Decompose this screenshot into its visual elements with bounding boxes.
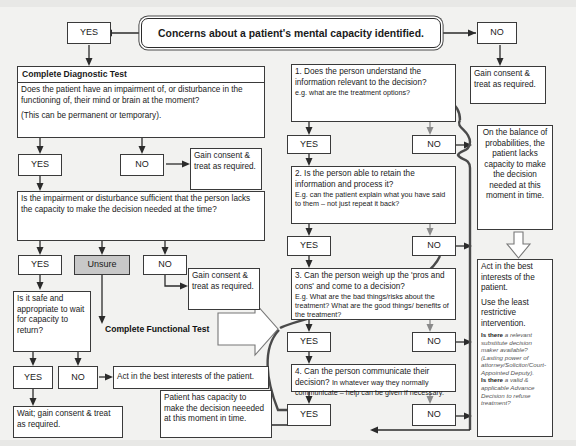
no-label-q2[interactable]: NO (412, 236, 456, 256)
functional-q1-box: 1. Does the person understand the inform… (291, 64, 456, 122)
functional-q2-text: 2. Is the person able to retain the info… (295, 169, 452, 190)
least-restrictive-text: Use the least restrictive intervention. (481, 298, 549, 330)
diagnostic-test-box: Complete Diagnostic Test Does the patien… (17, 66, 265, 138)
complete-functional-test-banner: Complete Functional Test (97, 314, 257, 344)
yes-label-wait[interactable]: YES (13, 366, 53, 389)
gain-consent-box-1: Gain consent & treat as required. (190, 148, 262, 190)
lacks-capacity-box: On the balance of probabilities, the pat… (477, 125, 553, 230)
yes-label-q1[interactable]: YES (287, 135, 331, 154)
yes-label-top[interactable]: YES (67, 22, 111, 44)
impairment-question-box: Is the impairment or disturbance suffici… (17, 191, 265, 241)
functional-q2-box: 2. Is the person able to retain the info… (291, 166, 456, 224)
diagnostic-test-note: (This can be permanent or temporary). (21, 111, 261, 122)
best-interests-box-left: Act in the best interests of the patient… (113, 366, 269, 389)
no-label-diagnostic[interactable]: NO (120, 154, 164, 176)
functional-q2-example: E.g. can the patient explain what you ha… (295, 190, 452, 208)
wait-outcome-box: Wait; gain consent & treat as required. (13, 406, 123, 438)
no-label-q3[interactable]: NO (412, 332, 456, 352)
flowchart-canvas: Concerns about a patient's mental capaci… (0, 0, 576, 446)
yes-label-impairment[interactable]: YES (18, 255, 62, 275)
gain-consent-box-2: Gain consent & treat as required. (188, 268, 260, 310)
note-1-lead: Is there (481, 331, 503, 338)
no-label-q4[interactable]: NO (412, 404, 456, 426)
yes-label-q3[interactable]: YES (287, 332, 331, 352)
functional-q1-example: e.g. what are the treatment options? (295, 88, 452, 97)
page-title: Concerns about a patient's mental capaci… (141, 18, 441, 48)
functional-q3-box: 3. Can the person weigh up the 'pros and… (291, 268, 456, 320)
bottom-edge-band (0, 440, 576, 446)
advance-decision-note: Is there a valid & applicable Advance De… (481, 376, 549, 406)
diagnostic-test-question: Does the patient have an impairment of, … (21, 85, 261, 106)
yes-label-q2[interactable]: YES (287, 236, 331, 256)
safe-to-wait-question-box: Is it safe and appropriate to wait for c… (13, 291, 91, 352)
yes-label-q4[interactable]: YES (287, 404, 331, 426)
yes-label-diagnostic[interactable]: YES (18, 154, 62, 176)
no-label-wait[interactable]: NO (58, 366, 98, 389)
best-interests-box-right: Act in the best interests of the patient… (477, 259, 553, 437)
functional-q3-example: E.g. What are the bad things/risks about… (295, 292, 452, 319)
no-label-q1[interactable]: NO (412, 135, 456, 154)
no-label-top[interactable]: NO (477, 22, 517, 44)
functional-q4-box: 4. Can the person communicate their deci… (291, 364, 456, 392)
top-edge-band (0, 0, 576, 7)
unsure-label-impairment[interactable]: Unsure (74, 255, 130, 275)
note-2-lead: Is there (481, 376, 503, 383)
substitute-decision-maker-note: Is there a relevant substitute decision … (481, 331, 549, 376)
functional-q1-text: 1. Does the person understand the inform… (295, 67, 452, 88)
diagnostic-test-header: Complete Diagnostic Test (18, 67, 264, 83)
functional-q3-text: 3. Can the person weigh up the 'pros and… (295, 271, 452, 292)
patient-has-capacity-box: Patient has capacity to make the decisio… (160, 390, 272, 438)
best-interests-heading: Act in the best interests of the patient… (481, 262, 549, 294)
note-1-body: a relevant substitute decision maker ava… (481, 331, 546, 376)
gain-consent-box-right: Gain consent & treat as required. (470, 66, 546, 104)
no-label-impairment[interactable]: NO (143, 255, 187, 275)
